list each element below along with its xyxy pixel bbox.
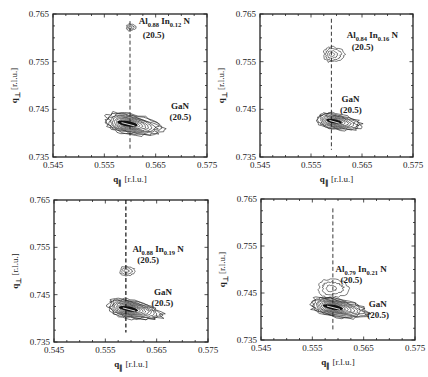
x-axis-label: q∥ [r.l.u.] [114,359,148,372]
y-tick-label: 0.755 [30,242,51,252]
alinn-peak-contours [324,46,346,62]
x-tick-label: 0.555 [301,160,322,170]
gan-label: GaN [342,94,361,104]
axes-frame [54,200,208,342]
y-tick-label: 0.765 [236,9,257,19]
x-tick-label: 0.555 [94,160,115,170]
y-tick-label: 0.745 [30,290,51,300]
rsm-figure: 0.5450.5550.5650.5750.7650.7550.7450.735… [0,0,428,377]
x-tick-label: 0.555 [95,345,116,355]
x-tick-label: 0.565 [146,160,167,170]
y-tick-label: 0.765 [237,194,258,204]
x-tick-label: 0.565 [352,160,373,170]
y-tick-label: 0.735 [30,337,51,347]
y-axis-label: q⊥ [r.l.u.] [216,68,229,104]
x-tick-label: 0.575 [403,160,424,170]
y-tick-label: 0.735 [29,152,50,162]
gan-reflection-label: (20.5) [367,310,389,320]
panel-top-left: 0.5450.5550.5650.5750.7650.7550.7450.735… [9,9,218,187]
gan-peak-contours [102,109,168,142]
gan-label: GaN [154,287,173,297]
alinn-reflection-label: (20.5) [137,255,159,265]
x-tick-label: 0.565 [147,345,168,355]
y-tick-label: 0.765 [29,9,50,19]
panel-top-right: 0.5450.5550.5650.5750.7650.7550.7450.735… [216,9,424,187]
alinn-peak-contours [120,266,135,276]
gan-label: GaN [369,299,388,309]
x-tick-label: 0.555 [302,343,323,353]
y-tick-label: 0.765 [30,195,51,205]
gan-label: GaN [171,101,190,111]
x-axis-label: q∥ [r.l.u.] [320,174,354,187]
y-tick-label: 0.755 [29,57,50,67]
panel-bottom-left: 0.5450.5550.5650.5750.7650.7550.7450.735… [10,195,219,372]
gan-reflection-label: (20.5) [152,298,174,308]
alinn-peak-contours [126,24,136,31]
alinn-reflection-label: (20.5) [341,275,363,285]
y-tick-label: 0.745 [236,104,257,114]
y-tick-label: 0.745 [29,104,50,114]
y-tick-label: 0.755 [237,241,258,251]
x-axis-label: q∥ [r.l.u.] [321,357,355,370]
y-tick-label: 0.735 [237,335,258,345]
gan-reflection-label: (20.5) [340,105,362,115]
alinn-reflection-label: (20.5) [352,42,374,52]
gan-reflection-label: (20.5) [170,112,192,122]
y-tick-label: 0.755 [236,57,257,67]
y-tick-label: 0.735 [236,152,257,162]
x-tick-label: 0.575 [405,343,426,353]
y-axis-label: q⊥ [r.l.u.] [9,68,22,104]
gan-peak-contours [308,294,372,324]
panel-bottom-right: 0.5450.5550.5650.5750.7650.7550.7450.735… [217,194,426,370]
x-axis-label: q∥ [r.l.u.] [113,174,147,187]
y-tick-label: 0.745 [237,288,258,298]
alinn-composition-label: Al0.84 In0.16 N [347,30,399,42]
y-axis-label: q⊥ [r.l.u.] [10,253,23,289]
x-tick-label: 0.565 [354,343,375,353]
x-tick-label: 0.575 [198,345,219,355]
alinn-reflection-label: (20.5) [143,30,165,40]
x-tick-label: 0.575 [197,160,218,170]
alinn-composition-label: Al0.88 In0.12 N [139,16,191,28]
y-axis-label: q⊥ [r.l.u.] [217,252,230,288]
